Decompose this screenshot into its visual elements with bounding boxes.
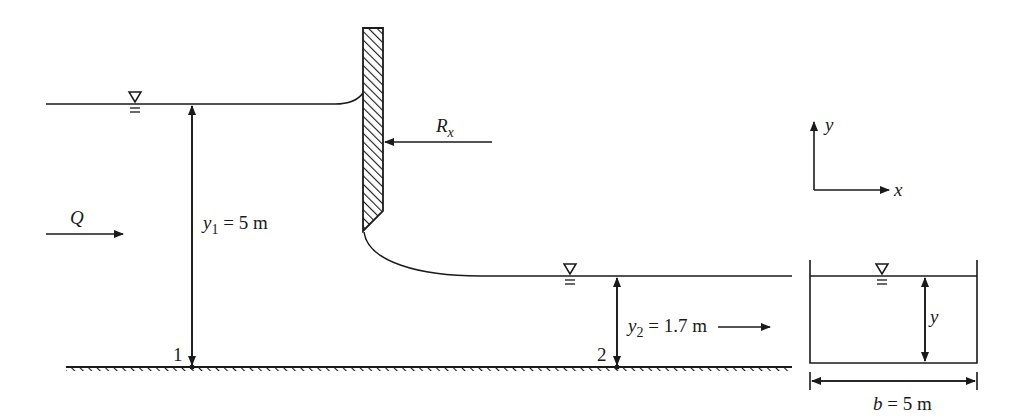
channel-cross-section: y — [810, 260, 977, 363]
svg-text:b = 5 m: b = 5 m — [873, 393, 932, 414]
reaction-force-arrow: Rx — [385, 115, 492, 142]
channel-bed — [66, 367, 792, 371]
x-axis-label: x — [893, 179, 903, 200]
water-level-symbol-upstream-icon — [129, 92, 141, 112]
flow-label: Q — [70, 207, 84, 228]
width-value: = 5 m — [883, 393, 932, 414]
section-1-label: 1 — [173, 344, 183, 365]
sluice-gate — [363, 28, 383, 231]
y1-subscript: 1 — [211, 222, 218, 237]
section-2-label: 2 — [597, 344, 607, 365]
svg-text:y2 = 1.7 m: y2 = 1.7 m — [626, 315, 707, 340]
force-label: R — [435, 115, 448, 136]
y2-value: = 1.7 m — [643, 315, 707, 336]
y2-subscript: 2 — [636, 325, 643, 340]
coordinate-axes: y x — [814, 114, 903, 200]
y1-variable: y — [201, 212, 212, 233]
svg-text:y1 = 5 m: y1 = 5 m — [201, 212, 268, 237]
water-level-symbol-downstream-icon — [564, 264, 576, 284]
downstream-water-surface — [364, 232, 792, 276]
section-depth-label: y — [928, 306, 939, 327]
flow-arrow: Q — [46, 207, 123, 234]
y1-value: = 5 m — [218, 212, 267, 233]
y-axis-label: y — [823, 114, 834, 135]
upstream-depth-dimension: y1 = 5 m 1 — [173, 106, 268, 370]
upstream-water-surface — [46, 93, 363, 104]
channel-width-dimension: b = 5 m — [810, 372, 977, 414]
force-subscript: x — [447, 125, 455, 140]
water-level-symbol-section-icon — [876, 264, 888, 284]
sluice-gate-diagram: Q Rx y1 = 5 m 1 y2 = 1.7 m 2 y x — [0, 0, 1031, 420]
y2-variable: y — [626, 315, 637, 336]
width-variable: b — [873, 393, 883, 414]
downstream-depth-dimension: y2 = 1.7 m 2 — [597, 278, 770, 370]
svg-text:Rx: Rx — [435, 115, 455, 140]
